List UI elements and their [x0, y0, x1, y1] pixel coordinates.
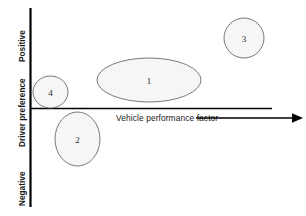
y-axis-label-positive: Positive	[18, 30, 27, 62]
y-axis-label-negative: Negative	[18, 171, 27, 206]
bubble-group-2[interactable]: 2	[55, 112, 100, 166]
positioning-diagram: Positive Driver preference Negative Vehi…	[0, 0, 306, 216]
bubble-label-2: 2	[75, 135, 80, 145]
diagram-canvas: Positive Driver preference Negative Vehi…	[0, 0, 306, 216]
y-axis-label-driver-preference: Driver preference	[18, 78, 27, 147]
bubble-group-4[interactable]: 4	[33, 76, 68, 108]
bubble-label-4: 4	[48, 88, 53, 98]
bubble-label-3: 3	[242, 34, 247, 44]
bubble-group-1[interactable]: 1	[97, 58, 201, 102]
bubble-label-1: 1	[147, 76, 152, 86]
bubble-group-3[interactable]: 3	[224, 18, 264, 58]
